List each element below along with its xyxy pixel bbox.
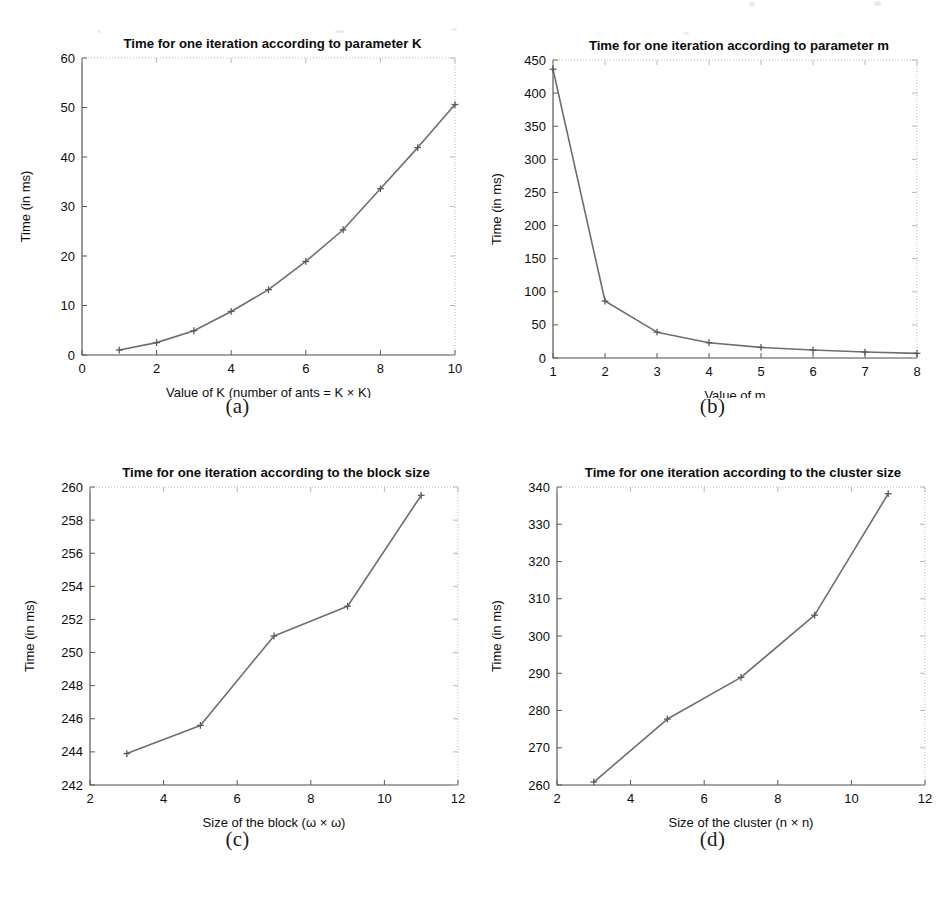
scan-artifact bbox=[749, 2, 755, 7]
y-tick-label: 400 bbox=[524, 86, 546, 101]
x-tick-label: 4 bbox=[705, 364, 712, 379]
data-point-marker bbox=[550, 66, 557, 73]
y-tick-label: 350 bbox=[524, 119, 546, 134]
chart-panel-a: Time for one iteration according to para… bbox=[0, 28, 475, 418]
x-tick-label: 10 bbox=[448, 361, 462, 376]
y-tick-label: 248 bbox=[61, 678, 83, 693]
y-tick-label: 450 bbox=[524, 53, 546, 68]
y-tick-label: 40 bbox=[61, 150, 75, 165]
x-tick-label: 6 bbox=[234, 791, 241, 806]
data-point-marker bbox=[123, 750, 130, 757]
y-tick-label: 260 bbox=[61, 480, 83, 495]
chart-title: Time for one iteration according to para… bbox=[124, 36, 422, 51]
y-tick-label: 310 bbox=[528, 591, 550, 606]
axis-lines bbox=[553, 60, 917, 358]
panel-caption-a: (a) bbox=[0, 394, 475, 419]
figure-sheet: Time for one iteration according to para… bbox=[0, 0, 950, 897]
y-tick-label: 258 bbox=[61, 513, 83, 528]
y-tick-label: 250 bbox=[61, 645, 83, 660]
axis-box-upper bbox=[557, 487, 925, 785]
x-tick-label: 6 bbox=[302, 361, 309, 376]
axis-lines bbox=[82, 58, 455, 355]
data-point-marker bbox=[885, 490, 892, 497]
x-tick-label: 8 bbox=[307, 791, 314, 806]
panel-caption-c: (c) bbox=[0, 827, 475, 852]
x-tick-label: 1 bbox=[549, 364, 556, 379]
data-point-marker bbox=[153, 339, 160, 346]
scan-artifact bbox=[97, 30, 101, 33]
y-tick-label: 330 bbox=[528, 517, 550, 532]
y-tick-label: 300 bbox=[528, 629, 550, 644]
scan-artifact bbox=[874, 1, 881, 6]
y-tick-label: 50 bbox=[532, 317, 546, 332]
x-tick-label: 4 bbox=[160, 791, 167, 806]
y-tick-label: 60 bbox=[61, 51, 75, 66]
data-point-marker bbox=[758, 344, 765, 351]
y-tick-label: 256 bbox=[61, 546, 83, 561]
y-tick-label: 320 bbox=[528, 554, 550, 569]
data-point-marker bbox=[654, 329, 661, 336]
x-tick-label: 2 bbox=[601, 364, 608, 379]
y-axis-label: Time (in ms) bbox=[22, 600, 37, 672]
y-tick-label: 100 bbox=[524, 284, 546, 299]
scan-artifact bbox=[684, 32, 689, 35]
y-tick-label: 260 bbox=[528, 778, 550, 793]
y-tick-label: 20 bbox=[61, 249, 75, 264]
chart-panel-c: Time for one iteration according to the … bbox=[0, 457, 475, 857]
y-axis-label: Time (in ms) bbox=[18, 171, 33, 243]
x-tick-label: 10 bbox=[844, 791, 858, 806]
y-tick-label: 200 bbox=[524, 218, 546, 233]
chart-c-svg: Time for one iteration according to the … bbox=[0, 457, 475, 837]
axis-lines bbox=[557, 487, 925, 785]
chart-d-svg: Time for one iteration according to the … bbox=[475, 457, 950, 837]
y-tick-label: 150 bbox=[524, 251, 546, 266]
data-point-marker bbox=[602, 298, 609, 305]
chart-panel-b: Time for one iteration according to para… bbox=[475, 28, 950, 418]
axis-box-upper bbox=[82, 58, 455, 355]
data-series-line bbox=[553, 69, 917, 353]
y-tick-label: 50 bbox=[61, 100, 75, 115]
x-tick-label: 6 bbox=[809, 364, 816, 379]
y-tick-label: 252 bbox=[61, 612, 83, 627]
y-tick-label: 30 bbox=[61, 199, 75, 214]
data-point-marker bbox=[228, 308, 235, 315]
chart-title: Time for one iteration according to para… bbox=[589, 38, 889, 53]
x-tick-label: 2 bbox=[86, 791, 93, 806]
x-tick-label: 2 bbox=[553, 791, 560, 806]
y-axis-label: Time (in ms) bbox=[489, 600, 504, 672]
x-tick-label: 8 bbox=[774, 791, 781, 806]
x-tick-label: 12 bbox=[918, 791, 932, 806]
x-tick-label: 4 bbox=[228, 361, 235, 376]
chart-title: Time for one iteration according to the … bbox=[585, 465, 901, 480]
y-tick-label: 340 bbox=[528, 480, 550, 495]
x-tick-label: 10 bbox=[377, 791, 391, 806]
y-tick-label: 290 bbox=[528, 666, 550, 681]
x-tick-label: 12 bbox=[451, 791, 465, 806]
x-tick-label: 6 bbox=[701, 791, 708, 806]
scan-artifact bbox=[452, 28, 457, 31]
axis-box-upper bbox=[553, 60, 917, 358]
data-point-marker bbox=[706, 339, 713, 346]
data-series-line bbox=[594, 494, 888, 782]
x-tick-label: 7 bbox=[861, 364, 868, 379]
y-tick-label: 246 bbox=[61, 711, 83, 726]
data-point-marker bbox=[191, 327, 198, 334]
y-tick-label: 10 bbox=[61, 298, 75, 313]
panel-caption-b: (b) bbox=[475, 394, 950, 419]
x-tick-label: 0 bbox=[78, 361, 85, 376]
y-tick-label: 270 bbox=[528, 740, 550, 755]
x-tick-label: 4 bbox=[627, 791, 634, 806]
x-tick-label: 3 bbox=[653, 364, 660, 379]
data-point-marker bbox=[116, 347, 123, 354]
panel-caption-d: (d) bbox=[475, 827, 950, 852]
data-series-line bbox=[119, 105, 455, 351]
y-tick-label: 242 bbox=[61, 778, 83, 793]
data-point-marker bbox=[862, 349, 869, 356]
x-tick-label: 5 bbox=[757, 364, 764, 379]
y-tick-label: 0 bbox=[68, 348, 75, 363]
chart-panel-d: Time for one iteration according to the … bbox=[475, 457, 950, 857]
y-tick-label: 300 bbox=[524, 152, 546, 167]
chart-b-svg: Time for one iteration according to para… bbox=[475, 28, 950, 398]
y-tick-label: 250 bbox=[524, 185, 546, 200]
y-tick-label: 0 bbox=[539, 351, 546, 366]
